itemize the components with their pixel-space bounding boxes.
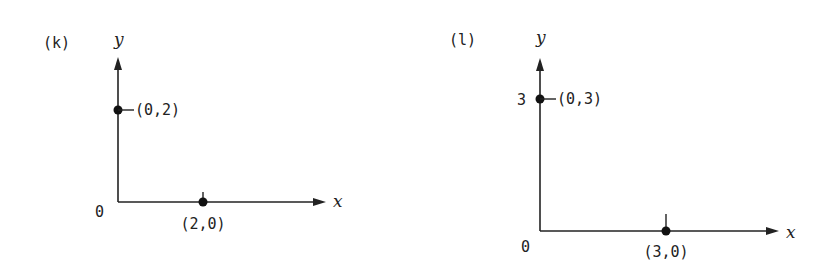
point-label: (3,0) bbox=[643, 243, 688, 261]
panel-l: (l) y x 0 3 (0,3) (3,0) bbox=[449, 27, 796, 261]
point-label: (2,0) bbox=[180, 215, 225, 233]
x-axis-label: x bbox=[333, 191, 343, 211]
y-axis-label: y bbox=[113, 29, 124, 49]
y-axis-arrow-icon bbox=[536, 58, 544, 71]
x-axis-label: x bbox=[786, 222, 796, 242]
panel-k: (k) y x 0 (0,2) (2,0) bbox=[43, 29, 343, 233]
y-axis-label: y bbox=[535, 27, 546, 47]
origin-label: 0 bbox=[521, 238, 530, 256]
point-2-0-marker bbox=[199, 198, 208, 207]
x-axis-arrow-icon bbox=[313, 198, 326, 206]
panel-label: (k) bbox=[43, 34, 70, 52]
point-label: (0,3) bbox=[557, 90, 602, 108]
panel-label: (l) bbox=[449, 31, 476, 49]
x-axis-arrow-icon bbox=[766, 227, 779, 235]
point-label: (0,2) bbox=[135, 101, 180, 119]
point-3-0-marker bbox=[662, 227, 671, 236]
diagram-canvas: (k) y x 0 (0,2) (2,0) (l) y x 0 3 bbox=[0, 0, 831, 279]
y-tick-label: 3 bbox=[517, 91, 526, 109]
origin-label: 0 bbox=[95, 203, 104, 221]
y-axis-arrow-icon bbox=[114, 57, 122, 70]
